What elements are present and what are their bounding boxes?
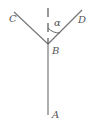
diagram: C D α B A (0, 0, 94, 125)
label-alpha: α (54, 17, 61, 28)
label-d: D (77, 14, 86, 25)
label-b: B (51, 45, 59, 56)
angle-alpha-arc (48, 28, 60, 33)
label-c: C (9, 13, 17, 24)
segment-bc (14, 12, 48, 44)
label-a: A (51, 109, 59, 120)
